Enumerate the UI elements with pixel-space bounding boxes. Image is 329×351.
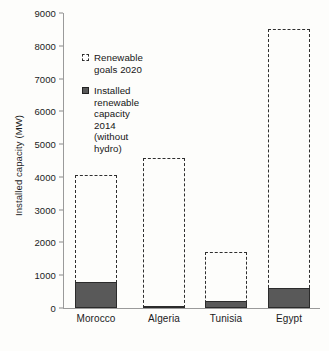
y-axis-line	[63, 13, 64, 308]
legend-item-goals: Renewable goals 2020	[82, 52, 143, 75]
legend-label-goals: Renewable goals 2020	[94, 52, 143, 75]
x-axis-label-algeria: Algeria	[130, 313, 198, 324]
y-axis-tick-label: 1000	[0, 270, 56, 281]
y-axis-tick-label: 5000	[0, 139, 56, 150]
legend-swatch-filled-icon	[82, 87, 89, 94]
y-axis-tick-label: 2000	[0, 237, 56, 248]
bar-installed-algeria[interactable]	[143, 306, 185, 309]
x-axis-label-morocco: Morocco	[62, 313, 130, 324]
y-axis-tick-label: 8000	[0, 40, 56, 51]
legend-item-installed: Installed renewable capacity 2014 (witho…	[82, 85, 139, 154]
bar-goal-tunisia[interactable]	[205, 252, 247, 308]
x-axis-label-tunisia: Tunisia	[192, 313, 260, 324]
y-axis-tick-label: 3000	[0, 204, 56, 215]
legend-label-installed: Installed renewable capacity 2014 (witho…	[94, 85, 139, 154]
legend-swatch-dashed-icon	[82, 54, 89, 61]
y-axis-tick-label: 7000	[0, 73, 56, 84]
x-axis-line	[63, 308, 320, 309]
y-axis-tick-label: 4000	[0, 171, 56, 182]
bar-installed-egypt[interactable]	[268, 288, 310, 308]
bar-chart: Installed capacity (MW) 0100020003000400…	[0, 0, 329, 351]
y-axis-tick-label: 0	[0, 303, 56, 314]
y-axis-tick-label: 6000	[0, 106, 56, 117]
bar-installed-morocco[interactable]	[75, 282, 117, 308]
bar-installed-tunisia[interactable]	[205, 301, 247, 308]
bar-goal-egypt[interactable]	[268, 29, 310, 308]
y-axis-tick-label: 9000	[0, 8, 56, 19]
bar-goal-algeria[interactable]	[143, 158, 185, 308]
x-axis-label-egypt: Egypt	[255, 313, 323, 324]
